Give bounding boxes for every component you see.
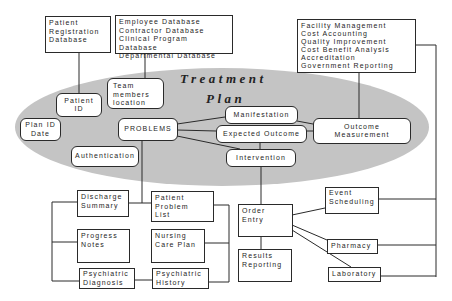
results-reporting-box: Results Reporting bbox=[238, 249, 292, 282]
treatment-plan-diagram: Treatment Plan Patient Registration Data… bbox=[0, 0, 452, 301]
team-members-location-node: Team members location bbox=[107, 78, 164, 109]
pharmacy-box: Pharmacy bbox=[327, 239, 378, 254]
nursing-care-plan-box: Nursing Care Plan bbox=[151, 229, 205, 263]
progress-notes-box: Progress Notes bbox=[77, 229, 130, 263]
psychiatric-diagnosis-box: Psychiatric Diagnosis bbox=[79, 268, 135, 289]
manifestation-node: Manifestation bbox=[225, 106, 298, 124]
expected-outcome-node: Expected Outcome bbox=[216, 125, 307, 143]
plan-id-date-node: Plan ID Date bbox=[20, 118, 61, 141]
patient-registration-database-box: Patient Registration Database bbox=[45, 16, 111, 53]
outcome-measurement-node: Outcome Measurement bbox=[313, 118, 411, 144]
psychiatric-history-box: Psychiatric History bbox=[152, 268, 209, 289]
staff-databases-box: Employee Database Contractor Database Cl… bbox=[115, 15, 233, 54]
laboratory-box: Laboratory bbox=[328, 267, 381, 282]
patient-problem-list-box: Patient Problem List bbox=[151, 191, 214, 222]
authentication-node: Authentication bbox=[71, 146, 139, 167]
event-scheduling-box: Event Scheduling bbox=[325, 187, 379, 214]
patient-id-node: Patient ID bbox=[56, 93, 102, 117]
administration-box: Facility Management Cost Accounting Qual… bbox=[297, 19, 416, 73]
order-entry-box: Order Entry bbox=[238, 204, 293, 237]
problems-node: PROBLEMS bbox=[118, 118, 178, 141]
discharge-summary-box: Discharge Summary bbox=[77, 190, 129, 217]
treatment-title: Treatment bbox=[180, 71, 267, 87]
plan-title: Plan bbox=[206, 91, 245, 107]
intervention-node: Intervention bbox=[226, 149, 296, 167]
